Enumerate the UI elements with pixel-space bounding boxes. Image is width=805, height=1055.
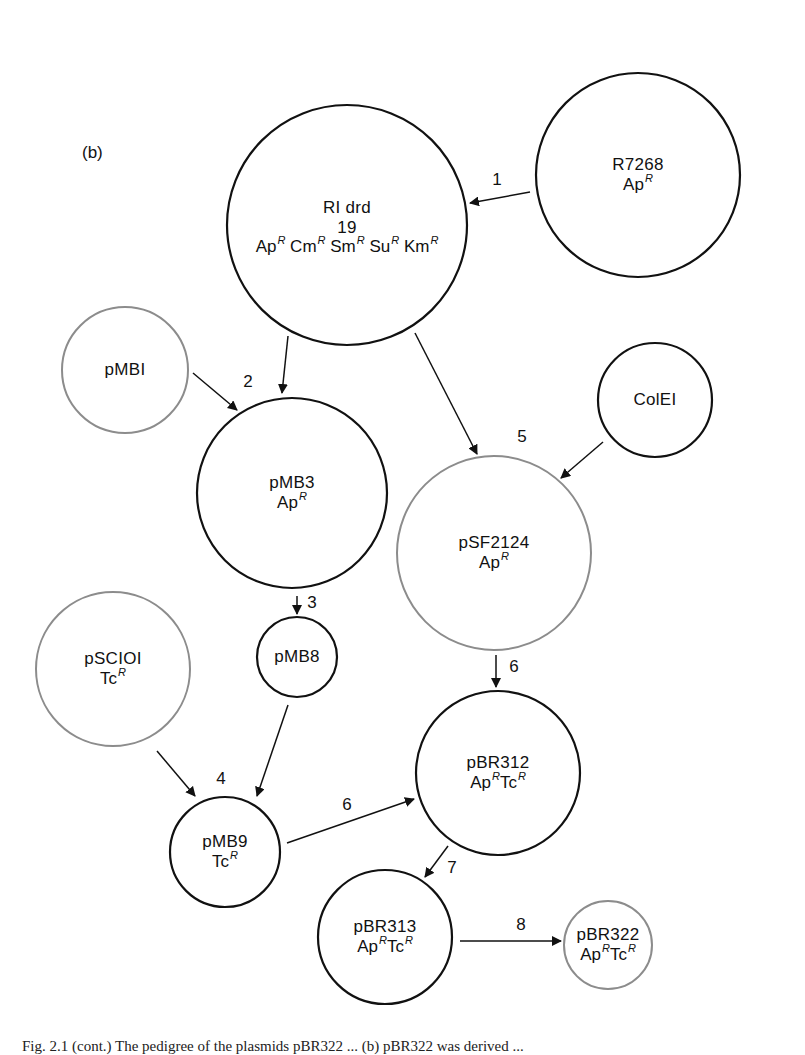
plasmid-name: pMB3 bbox=[269, 473, 315, 493]
resistance-markers: ApR CmR SmR SuR KmR bbox=[256, 237, 439, 257]
resistance-marker: Ap bbox=[580, 945, 601, 964]
plasmid-name: pMB9 bbox=[202, 832, 248, 852]
resistance-superscript: R bbox=[318, 234, 326, 246]
plasmid-label-colei: ColEI bbox=[633, 390, 676, 410]
resistance-superscript: R bbox=[501, 550, 509, 562]
step-number-label: 4 bbox=[216, 769, 225, 789]
step-number-label: 7 bbox=[447, 858, 456, 878]
resistance-marker: Ap bbox=[277, 493, 298, 512]
resistance-marker: Tc bbox=[387, 937, 404, 956]
resistance-markers: ApRTcR bbox=[576, 945, 639, 965]
plasmid-name: pMB8 bbox=[274, 647, 320, 667]
plasmid-name: pMBI bbox=[105, 360, 146, 380]
plasmid-label-pbr322: pBR322ApRTcR bbox=[576, 925, 639, 964]
plasmid-name: R7268 bbox=[612, 155, 664, 175]
plasmid-label-pmbi: pMBI bbox=[105, 360, 146, 380]
plasmid-name: pSCIOI bbox=[84, 649, 142, 669]
plasmid-label-pbr313: pBR313ApRTcR bbox=[353, 917, 416, 956]
resistance-superscript: R bbox=[299, 490, 307, 502]
panel-label: (b) bbox=[82, 143, 103, 163]
resistance-markers: ApRTcR bbox=[353, 937, 416, 957]
plasmid-name: RI drd bbox=[256, 198, 439, 218]
resistance-markers: ApRTcR bbox=[466, 773, 529, 793]
resistance-marker: Tc bbox=[500, 773, 517, 792]
resistance-superscript: R bbox=[602, 942, 610, 954]
step-number-label: 3 bbox=[307, 593, 316, 613]
plasmid-label-pmb3: pMB3ApR bbox=[269, 473, 315, 512]
resistance-marker: Ap bbox=[479, 553, 500, 572]
resistance-marker: Sm bbox=[330, 237, 356, 256]
derivation-arrows bbox=[157, 192, 603, 941]
resistance-markers: TcR bbox=[84, 669, 142, 689]
resistance-marker: Su bbox=[369, 237, 390, 256]
arrow-pscioi-to-pmb9 bbox=[157, 751, 195, 796]
resistance-superscript: R bbox=[430, 234, 438, 246]
plasmid-label-pmb9: pMB9TcR bbox=[202, 832, 248, 871]
resistance-markers: ApR bbox=[269, 493, 315, 513]
plasmid-label-ridrd19: RI drd19ApR CmR SmR SuR KmR bbox=[256, 198, 439, 257]
resistance-superscript: R bbox=[518, 770, 526, 782]
resistance-superscript: R bbox=[628, 942, 636, 954]
step-number-label: 8 bbox=[516, 915, 525, 935]
arrow-colei-to-psf2124 bbox=[561, 442, 603, 478]
arrow-pmb8-to-pmb9 bbox=[257, 705, 288, 796]
arrow-r7268-to-ridrd19 bbox=[470, 192, 530, 203]
resistance-markers: TcR bbox=[202, 852, 248, 872]
step-number-label: 6 bbox=[342, 795, 351, 815]
resistance-markers: ApR bbox=[458, 553, 529, 573]
resistance-superscript: R bbox=[357, 234, 365, 246]
resistance-marker: Cm bbox=[290, 237, 316, 256]
plasmid-label-pmb8: pMB8 bbox=[274, 647, 320, 667]
resistance-marker: Ap bbox=[357, 937, 378, 956]
step-number-label: 1 bbox=[492, 170, 501, 190]
resistance-superscript: R bbox=[645, 172, 653, 184]
arrow-ridrd19-to-pmb3 bbox=[282, 336, 288, 393]
resistance-marker: Ap bbox=[256, 237, 277, 256]
plasmid-name: pSF2124 bbox=[458, 533, 529, 553]
step-number-label: 2 bbox=[243, 372, 252, 392]
resistance-superscript: R bbox=[379, 934, 387, 946]
plasmid-name: ColEI bbox=[633, 390, 676, 410]
resistance-marker: Km bbox=[404, 237, 430, 256]
step-number-label: 6 bbox=[509, 657, 518, 677]
arrow-pbr312-to-pbr313 bbox=[425, 846, 448, 877]
resistance-superscript: R bbox=[492, 770, 500, 782]
resistance-markers: ApR bbox=[612, 175, 664, 195]
resistance-marker: Tc bbox=[610, 945, 627, 964]
resistance-superscript: R bbox=[391, 234, 399, 246]
resistance-superscript: R bbox=[405, 934, 413, 946]
resistance-marker: Ap bbox=[623, 175, 644, 194]
plasmid-label-r7268: R7268ApR bbox=[612, 155, 664, 194]
resistance-superscript: R bbox=[230, 849, 238, 861]
resistance-marker: Tc bbox=[100, 669, 117, 688]
resistance-marker: Ap bbox=[470, 773, 491, 792]
plasmid-label-pbr312: pBR312ApRTcR bbox=[466, 753, 529, 792]
plasmid-label-psf2124: pSF2124ApR bbox=[458, 533, 529, 572]
figure-caption: Fig. 2.1 (cont.) The pedigree of the pla… bbox=[22, 1038, 524, 1055]
resistance-superscript: R bbox=[277, 234, 285, 246]
plasmid-label-pscioi: pSCIOITcR bbox=[84, 649, 142, 688]
resistance-marker: Tc bbox=[212, 852, 229, 871]
arrow-pmbi-to-pmb3 bbox=[193, 373, 237, 410]
step-number-label: 5 bbox=[517, 427, 526, 447]
resistance-superscript: R bbox=[118, 666, 126, 678]
arrow-ridrd19-to-psf2124 bbox=[415, 333, 477, 454]
